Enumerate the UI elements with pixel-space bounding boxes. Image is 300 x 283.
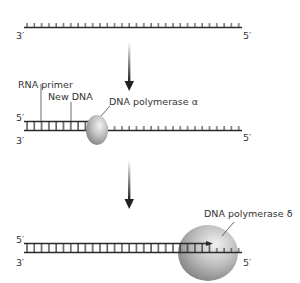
- base-pair-rungs: [24, 121, 94, 131]
- down-arrow-icon: [125, 42, 135, 91]
- down-arrow-icon: [125, 160, 135, 209]
- stage-3-elongation: DNA polymerase δ 5′ 3′ 5′: [16, 208, 293, 281]
- base-ticks: [92, 126, 242, 130]
- stage-1-template-strand: 3′ 5′: [16, 23, 251, 41]
- stage1-left-end-label: 3′: [16, 30, 24, 41]
- stage1-right-end-label: 5′: [243, 30, 251, 41]
- new-dna-label: New DNA: [48, 91, 93, 102]
- stage2-bottom-left-end-label: 3′: [16, 135, 24, 146]
- base-ticks: [212, 248, 242, 252]
- stage3-bottom-right-end-label: 5′: [243, 257, 251, 268]
- stage-2-primed-strand: RNA primer New DNA DNA polymerase α 5′ 3…: [16, 79, 251, 146]
- base-pair-rungs: [24, 243, 212, 253]
- stage3-bottom-left-end-label: 3′: [16, 257, 24, 268]
- stage3-top-left-end-label: 5′: [16, 234, 24, 245]
- rna-primer-label: RNA primer: [18, 79, 73, 90]
- stage2-bottom-right-end-label: 5′: [243, 132, 251, 143]
- base-ticks: [24, 23, 242, 27]
- polymerase-delta-label: DNA polymerase δ: [204, 208, 293, 219]
- dna-polymerase-alpha-enzyme: [86, 115, 108, 145]
- polymerase-alpha-label: DNA polymerase α: [109, 96, 198, 107]
- stage2-top-left-end-label: 5′: [16, 112, 24, 123]
- dna-replication-diagram: 3′ 5′ RNA primer New DNA DNA polymerase …: [0, 0, 300, 283]
- polymerase-alpha-leader-line: [101, 106, 110, 116]
